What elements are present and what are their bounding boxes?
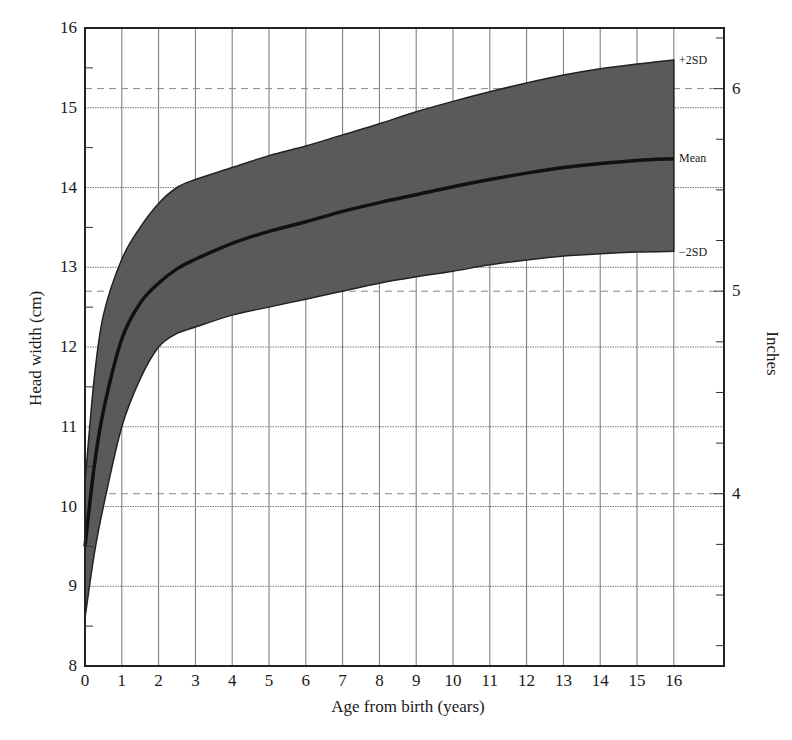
- x-tick-label: 9: [401, 672, 431, 689]
- y-tick-label: 13: [47, 258, 77, 275]
- y-tick-label: 14: [47, 179, 77, 196]
- x-axis-label: Age from birth (years): [308, 698, 508, 715]
- x-tick-label: 2: [144, 672, 174, 689]
- x-tick-label: 8: [364, 672, 394, 689]
- y2-axis-label: Inches: [764, 324, 781, 384]
- mean-label: Mean: [679, 152, 706, 164]
- x-tick-label: 0: [70, 672, 100, 689]
- growth-chart: [0, 0, 792, 740]
- x-tick-label: 7: [328, 672, 358, 689]
- x-tick-label: 16: [659, 672, 689, 689]
- x-tick-label: 12: [512, 672, 542, 689]
- plus-2sd-label: +2SD: [679, 54, 707, 66]
- y2-tick-label: 5: [732, 282, 741, 299]
- x-tick-label: 5: [254, 672, 284, 689]
- x-tick-label: 14: [585, 672, 615, 689]
- y-axis-label: Head width (cm): [27, 284, 44, 414]
- y-tick-label: 15: [47, 99, 77, 116]
- y2-tick-label: 6: [732, 80, 741, 97]
- y-tick-label: 12: [47, 338, 77, 355]
- y-tick-label: 10: [47, 498, 77, 515]
- y-tick-label: 9: [47, 577, 77, 594]
- x-tick-label: 4: [217, 672, 247, 689]
- x-tick-label: 3: [180, 672, 210, 689]
- x-tick-label: 10: [438, 672, 468, 689]
- x-tick-label: 6: [291, 672, 321, 689]
- x-tick-label: 15: [622, 672, 652, 689]
- x-tick-label: 11: [475, 672, 505, 689]
- y-tick-label: 11: [47, 418, 77, 435]
- x-tick-label: 1: [107, 672, 137, 689]
- y-tick-label: 16: [47, 19, 77, 36]
- y2-tick-label: 4: [732, 485, 741, 502]
- minus-2sd-label: −2SD: [679, 246, 707, 258]
- x-tick-label: 13: [548, 672, 578, 689]
